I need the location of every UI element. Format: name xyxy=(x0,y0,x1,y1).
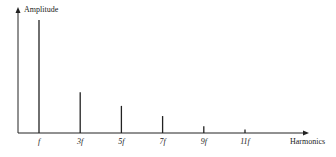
x-tick-label: 9f xyxy=(201,137,209,146)
stem-lines xyxy=(39,20,245,133)
x-tick-label: 11f xyxy=(240,137,251,146)
harmonic-spectrum-chart: Amplitude Harmonics f3f5f7f9f11f xyxy=(0,0,336,157)
x-tick-labels: f3f5f7f9f11f xyxy=(38,137,252,146)
x-axis-label: Harmonics xyxy=(290,137,325,146)
x-tick-label: 3f xyxy=(76,137,85,146)
x-axis-arrow-icon xyxy=(303,131,309,136)
x-tick-label: 5f xyxy=(118,137,126,146)
y-axis-arrow-icon xyxy=(16,7,21,13)
x-tick-label: f xyxy=(38,137,42,146)
y-axis-label: Amplitude xyxy=(24,5,59,14)
x-tick-label: 7f xyxy=(159,137,167,146)
